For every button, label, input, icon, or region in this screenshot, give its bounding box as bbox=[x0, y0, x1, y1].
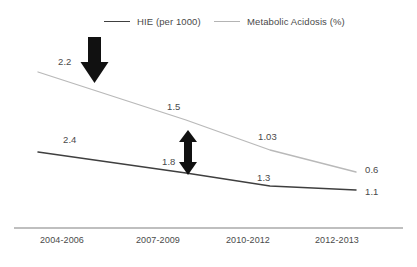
plot-area: 2.2 1.5 1.03 0.6 2.4 1.8 1.3 1.1 2004-20… bbox=[0, 0, 417, 267]
x-tick-label-3: 2012-2013 bbox=[289, 235, 385, 245]
point-label-hie-2: 1.3 bbox=[257, 172, 271, 183]
point-label-hie-1: 1.8 bbox=[162, 156, 176, 167]
point-label-hie-3: 1.1 bbox=[365, 186, 379, 197]
series-line-metabolic-acidosis bbox=[38, 72, 356, 172]
point-label-ma-3: 0.6 bbox=[365, 164, 379, 175]
x-tick-label-0: 2004-2006 bbox=[14, 235, 110, 245]
series-line-hie bbox=[38, 152, 356, 190]
point-label-ma-2: 1.03 bbox=[258, 131, 277, 142]
x-tick-label-2: 2010-2012 bbox=[200, 235, 296, 245]
gap-double-arrow-icon bbox=[179, 130, 197, 175]
point-label-ma-1: 1.5 bbox=[167, 101, 181, 112]
chart-container: HIE (per 1000) Metabolic Acidosis (%) bbox=[0, 0, 417, 267]
down-arrow-icon bbox=[81, 37, 109, 83]
point-label-hie-0: 2.4 bbox=[63, 134, 77, 145]
point-label-ma-0: 2.2 bbox=[58, 56, 72, 67]
x-tick-label-1: 2007-2009 bbox=[110, 235, 206, 245]
